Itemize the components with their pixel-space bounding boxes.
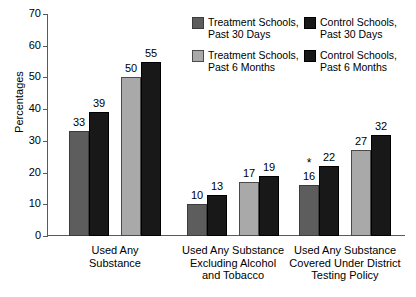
y-tick-label: 20 — [29, 166, 41, 178]
bar-value-label: 13 — [201, 181, 233, 192]
bar-value-label: 19 — [253, 162, 285, 173]
y-tick-mark — [43, 173, 48, 174]
bar-value-label: 39 — [83, 98, 115, 109]
bar-value-label: 32 — [365, 121, 397, 132]
y-tick: 30 — [47, 141, 52, 142]
bar — [121, 77, 141, 236]
y-tick-mark — [43, 141, 48, 142]
bar — [299, 185, 319, 236]
y-tick-mark — [43, 14, 48, 15]
y-tick-label: 50 — [29, 70, 41, 82]
y-tick: 0 — [47, 236, 52, 237]
bar — [141, 62, 161, 236]
bar — [89, 112, 109, 236]
bar-value-label: 22 — [313, 152, 345, 163]
y-axis-line — [47, 14, 48, 236]
y-tick: 70 — [47, 14, 52, 15]
y-tick: 40 — [47, 109, 52, 110]
y-tick-mark — [43, 77, 48, 78]
y-tick-label: 60 — [29, 39, 41, 51]
y-tick: 60 — [47, 46, 52, 47]
bar — [187, 204, 207, 236]
bar — [319, 166, 339, 236]
x-axis-category-label: Used Any Substance Covered Under Distric… — [275, 244, 415, 282]
y-tick-mark — [43, 236, 48, 237]
y-tick-mark — [43, 204, 48, 205]
bar — [371, 135, 391, 236]
y-tick-label: 0 — [35, 229, 41, 241]
bar — [207, 195, 227, 236]
bar-chart: Percentages Treatment Schools, Past 30 D… — [0, 0, 416, 297]
y-tick-mark — [43, 109, 48, 110]
y-tick-mark — [43, 46, 48, 47]
y-tick: 20 — [47, 173, 52, 174]
y-tick-label: 10 — [29, 197, 41, 209]
y-tick-label: 30 — [29, 134, 41, 146]
y-tick-label: 40 — [29, 102, 41, 114]
y-tick-label: 70 — [29, 7, 41, 19]
bar — [239, 182, 259, 236]
bar — [351, 150, 371, 236]
y-axis-title: Percentages — [13, 57, 25, 147]
plot-area: 010203040506070 331016*39132250172755193… — [47, 14, 405, 236]
bar — [69, 131, 89, 236]
y-tick: 10 — [47, 204, 52, 205]
bar-value-label: 55 — [135, 48, 167, 59]
bar — [259, 176, 279, 236]
y-tick: 50 — [47, 77, 52, 78]
